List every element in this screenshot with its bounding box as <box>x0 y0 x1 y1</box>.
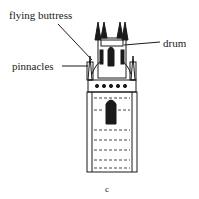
label-drum: drum <box>163 37 186 49</box>
flying-buttress-leader <box>58 24 92 60</box>
figure-caption: c <box>105 184 109 194</box>
label-pinnacles: pinnacles <box>12 60 54 72</box>
drum-leader <box>124 42 160 45</box>
label-flying-buttress: flying buttress <box>9 9 72 21</box>
tower-illustration <box>0 0 199 199</box>
